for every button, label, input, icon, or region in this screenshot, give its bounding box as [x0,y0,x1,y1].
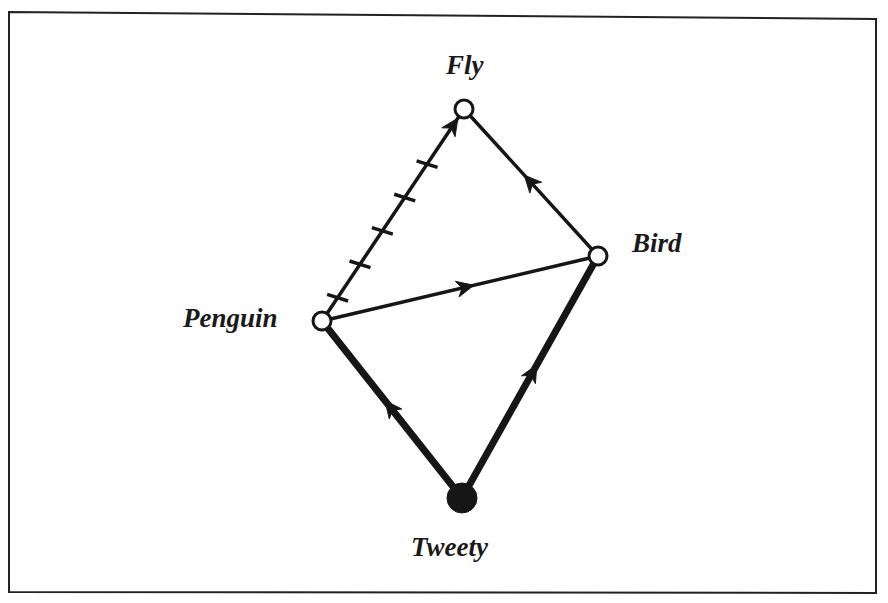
frame-border [9,12,876,593]
node-label-fly: Fly [446,52,484,79]
edge-tweety-to-bird [462,256,598,498]
node-label-penguin: Penguin [183,305,278,332]
edges [322,109,598,498]
node-label-tweety: Tweety [411,534,488,561]
nodes [313,100,607,513]
node-label-bird: Bird [632,230,682,257]
edge-tweety-to-penguin [322,321,462,498]
diagram-canvas [0,0,888,603]
node-bird [589,247,607,265]
diagram-frame [9,12,876,593]
arrowhead-icon [442,118,458,137]
node-tweety [447,483,477,513]
edge-bird-to-fly [464,109,598,256]
node-fly [455,100,473,118]
edge-penguin-to-fly [322,109,464,321]
node-penguin [313,312,331,330]
